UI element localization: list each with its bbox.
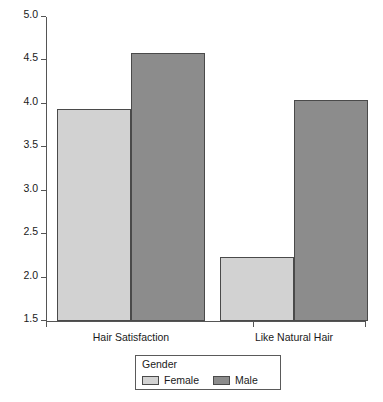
bar xyxy=(294,100,368,321)
x-tick-mark xyxy=(365,322,366,327)
legend-entry: Male xyxy=(213,374,258,386)
y-tick-label: 1.5 xyxy=(23,313,38,324)
y-tick-label: 5.0 xyxy=(23,9,38,20)
legend-swatch xyxy=(213,376,230,385)
x-tick-label: Hair Satisfaction xyxy=(51,331,211,343)
y-tick-label: 2.5 xyxy=(23,226,38,237)
bar xyxy=(57,109,131,321)
x-tick-mark xyxy=(253,322,254,327)
bar-chart: 5.04.54.03.53.02.52.01.5 Hair Satisfacti… xyxy=(0,0,383,402)
bar xyxy=(131,53,205,321)
x-tick-label: Like Natural Hair xyxy=(214,331,374,343)
legend-entry: Female xyxy=(142,374,199,386)
x-axis-line xyxy=(46,321,366,322)
legend-entries: FemaleMale xyxy=(142,374,258,386)
y-tick-label: 3.5 xyxy=(23,139,38,150)
plot-area xyxy=(46,17,366,321)
y-tick-label: 4.0 xyxy=(23,96,38,107)
legend-label: Female xyxy=(164,374,199,386)
legend: Gender FemaleMale xyxy=(135,355,281,390)
y-tick-label: 2.0 xyxy=(23,270,38,281)
legend-title: Gender xyxy=(142,358,177,370)
y-tick-label: 4.5 xyxy=(23,52,38,63)
y-tick-label: 3.0 xyxy=(23,183,38,194)
legend-label: Male xyxy=(235,374,258,386)
x-tick-mark xyxy=(46,322,47,327)
legend-swatch xyxy=(142,376,159,385)
bar xyxy=(220,257,294,321)
